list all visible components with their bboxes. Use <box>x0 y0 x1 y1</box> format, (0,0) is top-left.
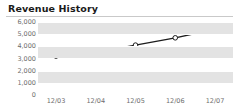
gridline <box>38 46 233 47</box>
y-axis-tick-label: 5,000 <box>2 30 36 38</box>
grid-band <box>38 46 233 58</box>
gridline <box>38 22 233 23</box>
page-title: Revenue History <box>8 3 98 14</box>
revenue-history-panel: Revenue History 6,0005,0004,0003,0002,00… <box>0 0 239 111</box>
x-axis-tick-label: 12/07 <box>206 97 225 105</box>
gridline <box>38 94 233 95</box>
x-axis-tick-label: 12/06 <box>166 97 185 105</box>
y-axis-tick-label: 2,000 <box>2 67 36 75</box>
revenue-history-chart: 6,0005,0004,0003,0002,0001,0000 12/0312/… <box>0 18 239 111</box>
y-axis-tick-label: 3,000 <box>2 55 36 63</box>
y-axis: 6,0005,0004,0003,0002,0001,0000 <box>0 22 36 95</box>
x-axis-tick-label: 12/05 <box>126 97 145 105</box>
title-divider <box>6 16 233 17</box>
grid-band <box>38 71 233 83</box>
gridline <box>38 83 233 84</box>
x-axis-tick-label: 12/04 <box>86 97 105 105</box>
plot-area <box>38 22 233 95</box>
gridline <box>38 59 233 60</box>
y-axis-tick-label: 6,000 <box>2 18 36 26</box>
gridline <box>38 34 233 35</box>
y-axis-tick-label: 1,000 <box>2 79 36 87</box>
grid-band <box>38 22 233 34</box>
y-axis-tick-label: 4,000 <box>2 42 36 50</box>
y-axis-tick-label: 0 <box>2 91 36 99</box>
data-point-marker[interactable] <box>173 36 178 41</box>
x-axis-tick-label: 12/03 <box>47 97 66 105</box>
gridline <box>38 71 233 72</box>
